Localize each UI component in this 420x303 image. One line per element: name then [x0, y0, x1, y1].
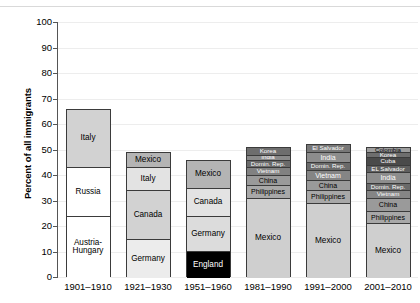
bar-segment-label: Domin. Rep. [311, 163, 345, 170]
bar-segment[interactable]: Austria-Hungary [67, 217, 110, 278]
bar-segment[interactable]: India [307, 153, 350, 163]
stacked-bar[interactable]: MexicoItalyCanadaGermany [126, 152, 171, 277]
bar-segment-label: Canada [194, 198, 223, 207]
bar-segment[interactable]: El Salvador [307, 145, 350, 153]
bar-segment[interactable]: Russia [67, 168, 110, 216]
bar-segment[interactable]: Canada [187, 189, 230, 217]
bar-segment[interactable]: Domin. Rep. [307, 163, 350, 171]
gridline [58, 226, 418, 227]
bar-segment[interactable]: Italy [67, 110, 110, 169]
top-rule [0, 6, 420, 7]
bar-segment[interactable]: Domin. Rep. [247, 161, 290, 169]
bar-segment-label: Philippines [371, 214, 405, 221]
bar-segment-label: Russia [75, 188, 100, 197]
bar-segment[interactable]: Korea [247, 148, 290, 156]
bar-segment-label: Vietnam [257, 168, 280, 175]
bar-segment-label: Italy [80, 134, 95, 143]
bar-segment[interactable]: Germany [187, 217, 230, 253]
bar-segment-label: England [193, 261, 223, 270]
y-axis-tick-label: 40 [24, 169, 52, 180]
stacked-bar[interactable]: El SalvadorIndiaDomin. Rep.VietnamChinaP… [306, 144, 351, 277]
bar-segment-label: Mexico [195, 170, 221, 179]
y-axis-tick-label: 100 [24, 16, 52, 27]
bar-segment[interactable]: Mexico [367, 224, 410, 278]
bar-segment-label: Philippines [311, 193, 345, 200]
bar-segment[interactable]: China [367, 199, 410, 212]
x-axis-tick-label: 2001–2010 [348, 281, 420, 292]
bar-segment[interactable]: Philippines [307, 191, 350, 204]
gridline [58, 99, 418, 100]
bar-segment[interactable]: India [367, 173, 410, 183]
y-axis-tick [53, 48, 58, 49]
bar-segment-label: El Salvador [312, 145, 344, 152]
gridline [58, 150, 418, 151]
gridline [58, 252, 418, 253]
bar-segment-label: Vietnam [315, 172, 341, 179]
bar-segment-label: EL Salvador [371, 166, 404, 173]
bar-segment-label: Canada [134, 211, 163, 220]
y-axis-tick-label: 80 [24, 67, 52, 78]
gridline [58, 22, 418, 23]
gridline [58, 124, 418, 125]
bar-segment-label: China [259, 177, 277, 184]
bar-segment-label: Mexico [255, 234, 281, 243]
y-axis-tick [53, 73, 58, 74]
y-axis-tick [53, 175, 58, 176]
bar-segment[interactable]: Germany [127, 240, 170, 278]
plot-area: 0102030405060708090100ItalyRussiaAustria… [58, 22, 418, 277]
bar-segment-label: Philippines [251, 188, 285, 195]
stacked-bar[interactable]: ItalyRussiaAustria-Hungary [66, 109, 111, 277]
y-axis-tick [53, 252, 58, 253]
bar-segment-label: Korea [260, 148, 277, 155]
y-axis-tick-label: 20 [24, 220, 52, 231]
bar-segment-label: India [320, 154, 335, 161]
y-axis-tick-label: 70 [24, 93, 52, 104]
bar-segment[interactable]: Italy [127, 168, 170, 191]
stacked-bar[interactable]: ColombiaKoreaCubaEL SalvadorIndiaDomin. … [366, 147, 411, 277]
bar-segment[interactable]: EL Salvador [367, 166, 410, 174]
bar-segment-label: Mexico [315, 237, 341, 246]
bar-segment[interactable]: Cuba [367, 158, 410, 166]
bar-segment-label: Italy [140, 175, 155, 184]
immigration-stacked-bar-chart: Percent of all immigrants 01020304050607… [0, 0, 420, 303]
y-axis-tick [53, 277, 58, 278]
bar-segment-label: Mexico [135, 156, 161, 165]
y-axis-tick-label: 30 [24, 195, 52, 206]
gridline [58, 48, 418, 49]
y-axis-tick-label: 90 [24, 42, 52, 53]
bar-segment[interactable]: Vietnam [367, 191, 410, 199]
bar-segment[interactable]: China [307, 181, 350, 191]
stacked-bar[interactable]: KoreaIndiaDomin. Rep.VietnamChinaPhilipp… [246, 147, 291, 277]
gridline [58, 277, 418, 278]
y-axis-tick [53, 201, 58, 202]
y-axis-tick [53, 22, 58, 23]
bar-segment[interactable]: Philippines [367, 212, 410, 225]
y-axis-tick [53, 124, 58, 125]
bar-segment-label: Mexico [375, 247, 401, 256]
bar-segment[interactable]: Mexico [247, 199, 290, 278]
bar-segment[interactable]: Vietnam [247, 168, 290, 176]
stacked-bar[interactable]: MexicoCanadaGermanyEngland [186, 160, 231, 277]
bar-segment[interactable]: England [187, 252, 230, 278]
bar-segment[interactable]: Philippines [247, 186, 290, 199]
bar-segment[interactable]: China [247, 176, 290, 186]
bar-segment-label: Domin. Rep. [251, 161, 285, 168]
bar-segment[interactable]: Vietnam [307, 171, 350, 181]
y-axis-tick-label: 50 [24, 144, 52, 155]
bar-segment-label: Cuba [381, 158, 396, 165]
bar-segment[interactable]: Mexico [187, 161, 230, 189]
bar-segment[interactable]: Mexico [127, 153, 170, 168]
bar-segment[interactable]: Mexico [307, 204, 350, 278]
bar-segment-label: Austria-Hungary [73, 239, 104, 257]
gridline [58, 175, 418, 176]
bar-segment-label: China [379, 201, 397, 208]
bar-segment-label: China [319, 182, 337, 189]
bar-segment-label: Germany [191, 230, 225, 239]
bar-segment[interactable]: Canada [127, 191, 170, 239]
bar-segment-label: Domin. Rep. [371, 184, 405, 191]
y-axis-tick [53, 226, 58, 227]
bar-segment-label: Vietnam [377, 191, 400, 198]
gridline [58, 201, 418, 202]
bar-segment[interactable]: Domin. Rep. [367, 184, 410, 192]
y-axis-tick [53, 150, 58, 151]
